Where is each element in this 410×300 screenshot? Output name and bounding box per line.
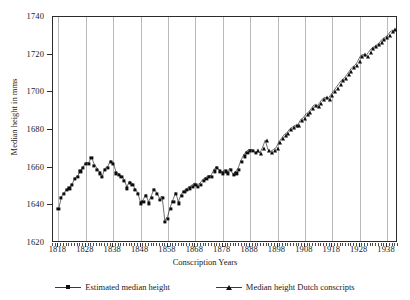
data-point-triangle bbox=[393, 28, 397, 32]
data-point-triangle bbox=[344, 77, 348, 81]
y-axis-tick-labels: 1620164016601680170017201740 bbox=[0, 0, 52, 244]
x-axis-title: Conscription Years bbox=[0, 257, 410, 267]
data-point-square bbox=[98, 172, 101, 175]
x-tick-label: 1868 bbox=[186, 245, 203, 254]
data-point-square bbox=[79, 170, 82, 173]
data-point-triangle bbox=[303, 116, 307, 120]
data-point-square bbox=[153, 189, 156, 192]
x-tick-label: 1818 bbox=[49, 245, 66, 254]
x-tick-label: 1908 bbox=[295, 245, 312, 254]
legend-entry-estimated: Estimated median height bbox=[55, 282, 170, 292]
legend-entry-conscripts: Median height Dutch conscripts bbox=[216, 282, 355, 292]
series-line-0 bbox=[59, 150, 254, 221]
data-point-square bbox=[60, 196, 63, 199]
data-point-square bbox=[213, 170, 216, 173]
y-tick-label: 1700 bbox=[27, 87, 44, 96]
x-tick-label: 1828 bbox=[76, 245, 93, 254]
data-point-triangle bbox=[358, 60, 362, 64]
data-point-triangle bbox=[355, 64, 359, 68]
x-tick-label: 1848 bbox=[131, 245, 148, 254]
y-tick-label: 1640 bbox=[27, 200, 44, 209]
data-point-triangle bbox=[333, 90, 337, 94]
data-point-square bbox=[95, 168, 98, 171]
data-point-triangle bbox=[311, 107, 315, 111]
data-point-square bbox=[161, 196, 164, 199]
data-point-square bbox=[199, 183, 202, 186]
data-point-triangle bbox=[369, 50, 373, 54]
chart-legend: Estimated median height Median height Du… bbox=[0, 279, 410, 295]
data-point-square bbox=[172, 200, 175, 203]
data-point-square bbox=[155, 192, 158, 195]
data-point-square bbox=[235, 172, 238, 175]
data-point-triangle bbox=[366, 54, 370, 58]
plot-area bbox=[52, 16, 397, 242]
data-point-square bbox=[57, 208, 60, 211]
series-layer bbox=[53, 17, 396, 241]
y-tick-label: 1660 bbox=[27, 162, 44, 171]
data-point-square bbox=[240, 160, 243, 163]
data-point-triangle bbox=[281, 137, 285, 141]
data-point-square bbox=[123, 179, 126, 182]
data-point-square bbox=[76, 175, 79, 178]
data-point-square bbox=[180, 194, 183, 197]
data-point-square bbox=[145, 194, 148, 197]
data-point-square bbox=[125, 187, 128, 190]
data-point-triangle bbox=[328, 97, 332, 101]
data-point-square bbox=[175, 192, 178, 195]
data-point-square bbox=[227, 172, 230, 175]
data-point-square bbox=[82, 166, 85, 169]
data-point-square bbox=[229, 168, 232, 171]
data-point-square bbox=[142, 200, 145, 203]
data-point-triangle bbox=[262, 146, 266, 150]
y-tick-label: 1680 bbox=[27, 125, 44, 134]
x-tick-label: 1938 bbox=[377, 245, 394, 254]
series-connector-lines bbox=[53, 17, 396, 241]
legend-label: Estimated median height bbox=[85, 282, 170, 292]
data-point-triangle bbox=[265, 139, 269, 143]
data-point-square bbox=[238, 168, 241, 171]
data-point-square bbox=[177, 202, 180, 205]
data-point-triangle bbox=[347, 73, 351, 77]
data-point-triangle bbox=[319, 101, 323, 105]
data-point-triangle bbox=[388, 33, 392, 37]
data-point-square bbox=[147, 202, 150, 205]
legend-line bbox=[55, 287, 81, 288]
data-point-square bbox=[164, 221, 167, 224]
data-point-triangle bbox=[308, 111, 312, 115]
data-point-triangle bbox=[339, 82, 343, 86]
data-point-square bbox=[106, 166, 109, 169]
data-point-triangle bbox=[380, 41, 384, 45]
data-point-triangle bbox=[336, 86, 340, 90]
x-tick-label: 1928 bbox=[350, 245, 367, 254]
x-tick-label: 1898 bbox=[268, 245, 285, 254]
x-tick-label: 1838 bbox=[104, 245, 121, 254]
legend-line bbox=[216, 287, 242, 288]
data-point-square bbox=[62, 192, 65, 195]
data-point-square bbox=[90, 157, 93, 160]
y-tick-label: 1740 bbox=[27, 12, 44, 21]
triangle-marker-icon bbox=[226, 285, 232, 290]
data-point-triangle bbox=[297, 124, 301, 128]
data-point-square bbox=[134, 189, 137, 192]
data-point-triangle bbox=[349, 69, 353, 73]
data-point-triangle bbox=[330, 94, 334, 98]
data-point-square bbox=[169, 208, 172, 211]
y-tick-label: 1720 bbox=[27, 49, 44, 58]
data-point-square bbox=[243, 155, 246, 158]
data-point-square bbox=[150, 196, 153, 199]
x-tick-label: 1858 bbox=[158, 245, 175, 254]
data-point-square bbox=[120, 175, 123, 178]
x-tick-label: 1888 bbox=[240, 245, 257, 254]
data-point-square bbox=[131, 183, 134, 186]
data-point-square bbox=[112, 162, 115, 165]
data-point-triangle bbox=[286, 131, 290, 135]
data-point-square bbox=[210, 175, 213, 178]
data-point-triangle bbox=[317, 105, 321, 109]
data-point-square bbox=[92, 164, 95, 167]
data-point-square bbox=[216, 166, 219, 169]
data-point-triangle bbox=[259, 152, 263, 156]
data-point-square bbox=[166, 217, 169, 220]
data-point-triangle bbox=[278, 141, 282, 145]
chart-figure: Median height in mms 1620164016601680170… bbox=[0, 0, 410, 300]
data-point-square bbox=[87, 162, 90, 165]
